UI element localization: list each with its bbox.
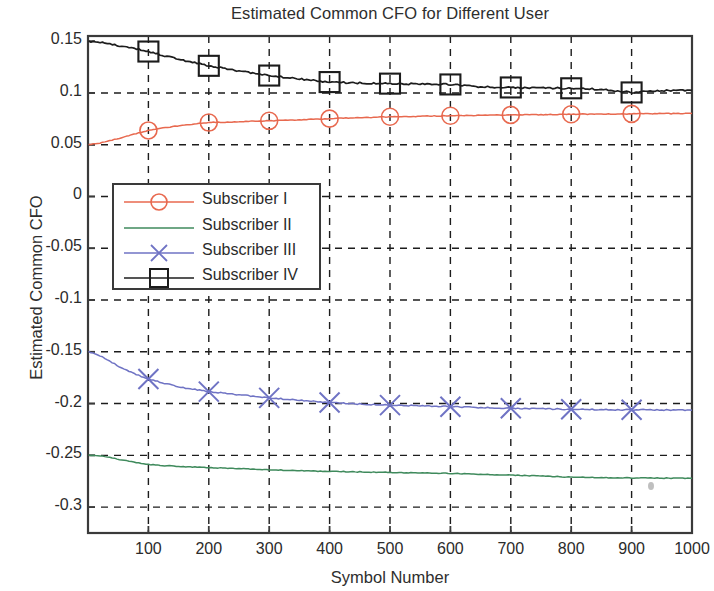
- legend-sample-subscriber-ii: [122, 215, 196, 241]
- legend-label-subscriber-ii: Subscriber II: [202, 216, 292, 234]
- scan-artifact-speck: [648, 482, 654, 490]
- legend-item-subscriber-iii[interactable]: Subscriber III: [114, 240, 319, 266]
- legend-sample-subscriber-i: [122, 189, 196, 215]
- legend-sample-subscriber-iv: [122, 265, 196, 291]
- legend-sample-subscriber-iii: [122, 240, 196, 266]
- legend: Subscriber I Subscriber II Subscriber II…: [112, 183, 321, 290]
- legend-label-subscriber-iv: Subscriber IV: [202, 266, 298, 284]
- legend-label-subscriber-iii: Subscriber III: [202, 241, 296, 259]
- legend-label-subscriber-i: Subscriber I: [202, 190, 287, 208]
- legend-item-subscriber-i[interactable]: Subscriber I: [114, 189, 319, 215]
- legend-item-subscriber-ii[interactable]: Subscriber II: [114, 215, 319, 241]
- legend-item-subscriber-iv[interactable]: Subscriber IV: [114, 265, 319, 291]
